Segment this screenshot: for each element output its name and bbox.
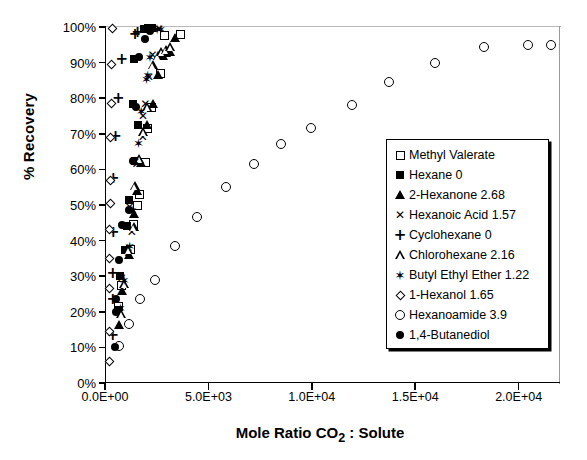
data-point-star: ✶ (155, 22, 166, 35)
legend-item[interactable]: Hexanoamide 3.9 (392, 305, 544, 325)
y-axis-tick (99, 26, 106, 28)
y-axis-tick (99, 240, 106, 242)
legend-label: Hexane 0 (409, 169, 463, 182)
y-tick-label: 20% (44, 304, 96, 319)
y-tick-label: 60% (44, 162, 96, 177)
data-point-circle-open (430, 58, 440, 68)
legend-item[interactable]: +Cyclohexane 0 (392, 225, 544, 245)
legend-marker-circle-open-icon (392, 307, 408, 323)
data-point-circle-open (523, 40, 533, 50)
data-point-star: ✶ (133, 136, 144, 149)
y-axis-tick (99, 169, 106, 171)
legend-item[interactable]: ✕Hexanoic Acid 1.57 (392, 205, 544, 225)
data-point-circle-open (384, 77, 394, 87)
legend-marker-plus-icon: + (392, 227, 408, 243)
data-point-triangle-open (130, 181, 140, 190)
data-point-diamond-open (105, 198, 115, 208)
legend-marker-diamond-open-icon (392, 287, 408, 303)
y-axis-tick (99, 275, 106, 277)
data-point-circle-filled (118, 221, 126, 229)
legend-item[interactable]: Chlorohexane 2.16 (392, 245, 544, 265)
legend-label: Butyl Ethyl Ether 1.22 (409, 269, 529, 282)
y-axis-tick (99, 62, 106, 64)
data-point-triangle-filled (153, 70, 163, 79)
y-tick-label: 40% (44, 233, 96, 248)
data-point-star: ✶ (144, 51, 155, 64)
legend-label: Chlorohexane 2.16 (409, 249, 515, 262)
data-point-circle-open (479, 42, 489, 52)
legend-item[interactable]: 1,4-Butanediol (392, 325, 544, 345)
data-point-circle-open (276, 139, 286, 149)
data-point-plus: + (115, 52, 128, 67)
data-point-diamond-open (105, 253, 115, 263)
x-axis-title-post: : Solute (345, 424, 404, 441)
legend-marker-triangle-open-icon (392, 247, 408, 263)
legend-marker-square-open-icon (392, 147, 408, 163)
x-tick-label: 5.0E+03 (185, 390, 232, 404)
legend-label: Hexanoamide 3.9 (409, 309, 507, 322)
y-tick-label: 70% (44, 126, 96, 141)
legend-item[interactable]: Methyl Valerate (392, 145, 544, 165)
data-point-circle-open (221, 182, 231, 192)
x-axis-tick (208, 383, 210, 390)
data-point-circle-open (170, 241, 180, 251)
data-point-triangle-filled (170, 33, 180, 42)
legend-label: Hexanoic Acid 1.57 (409, 209, 516, 222)
data-point-star: ✶ (124, 239, 135, 252)
data-point-plus: + (107, 265, 120, 280)
data-point-circle-filled (135, 53, 143, 61)
data-point-circle-filled (146, 27, 154, 35)
data-point-circle-open (249, 159, 259, 169)
data-point-triangle-open (165, 42, 175, 51)
data-point-circle-open (192, 212, 202, 222)
data-point-circle-open (306, 123, 316, 133)
x-tick-label: 1.0E+04 (288, 390, 335, 404)
data-point-circle-open (150, 275, 160, 285)
legend-marker-star-icon: ✶ (392, 267, 408, 283)
x-axis-tick (518, 383, 520, 390)
y-tick-label: 0% (44, 376, 96, 391)
x-axis-title: Mole Ratio CO2 : Solute (80, 424, 560, 445)
y-axis-tick (99, 311, 106, 313)
x-axis-tick (311, 383, 313, 390)
y-axis-tick (99, 347, 106, 349)
data-point-circle-filled (141, 35, 149, 43)
data-point-circle-open (546, 40, 556, 50)
x-axis-title-pre: Mole Ratio CO (236, 424, 339, 441)
data-point-circle-open (124, 319, 134, 329)
x-axis-tick (104, 383, 106, 390)
data-point-circle-open (347, 100, 357, 110)
legend-marker-triangle-filled-icon (392, 187, 408, 203)
legend-label: Methyl Valerate (409, 149, 495, 162)
data-point-circle-filled (129, 157, 137, 165)
legend-label: 1,4-Butanediol (409, 329, 490, 342)
y-tick-label: 90% (44, 55, 96, 70)
y-tick-label: 30% (44, 269, 96, 284)
x-tick-label: 0.0E+00 (82, 390, 129, 404)
legend-marker-x-cross-icon: ✕ (392, 207, 408, 223)
data-point-circle-open (135, 294, 145, 304)
data-point-star: ✶ (142, 69, 153, 82)
y-tick-label: 50% (44, 198, 96, 213)
y-axis-tick (99, 97, 106, 99)
y-tick-label: 10% (44, 340, 96, 355)
legend-label: 1-Hexanol 1.65 (409, 289, 494, 302)
scatter-chart: % Recovery Mole Ratio CO2 : Solute 0%10%… (0, 0, 587, 460)
legend-item[interactable]: Hexane 0 (392, 165, 544, 185)
legend-marker-square-filled-icon (392, 167, 408, 183)
data-point-circle-filled (115, 256, 123, 264)
legend-label: Cyclohexane 0 (409, 229, 492, 242)
y-tick-label: 80% (44, 91, 96, 106)
legend-marker-circle-filled-icon (392, 327, 408, 343)
y-axis-title: % Recovery (20, 47, 37, 227)
data-point-star: ✶ (119, 273, 130, 286)
legend-item[interactable]: 2-Hexanone 2.68 (392, 185, 544, 205)
legend-item[interactable]: 1-Hexanol 1.65 (392, 285, 544, 305)
y-axis-tick (99, 133, 106, 135)
data-point-triangle-open (129, 222, 139, 231)
chart-legend: Methyl ValerateHexane 02-Hexanone 2.68✕H… (386, 139, 549, 349)
y-tick-label: 100% (44, 20, 96, 35)
legend-item[interactable]: ✶Butyl Ethyl Ether 1.22 (392, 265, 544, 285)
y-axis-tick (99, 204, 106, 206)
legend-label: 2-Hexanone 2.68 (409, 189, 505, 202)
